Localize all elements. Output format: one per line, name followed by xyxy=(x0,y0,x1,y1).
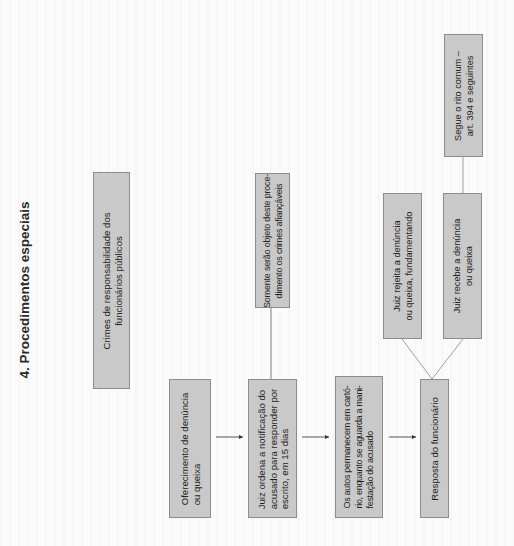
node-text: Juiz ordena a notificação do acusado par… xyxy=(255,388,290,509)
node-text: Os autos permanecem em cartó- rio, enqua… xyxy=(342,386,377,509)
node-oferecimento-denuncia: Oferecimento de denúncia ou queixa xyxy=(169,379,211,518)
node-resposta-funcionario: Resposta do funcionário xyxy=(420,379,449,518)
node-juiz-recebe: Juiz recebe a denúncia ou queixa xyxy=(443,193,482,339)
node-text: Resposta do funcionário xyxy=(429,397,441,500)
node-crimes-responsabilidade: Crimes de responsabilidade dos funcionár… xyxy=(93,172,130,389)
node-juiz-rejeita: Juiz rejeita a denúncia ou queixa, funda… xyxy=(383,193,422,339)
line-resposta-to-rejeita xyxy=(402,339,432,379)
section-title: 4. Procedimentos especiais xyxy=(17,201,32,378)
node-text: Segue o rito comum – art. 394 e seguinte… xyxy=(452,51,475,141)
node-text: Somente serão objeto deste proce- diment… xyxy=(261,174,284,308)
node-juiz-ordena-notificacao: Juiz ordena a notificação do acusado par… xyxy=(248,379,297,518)
node-text: Juiz recebe a denúncia ou queixa xyxy=(451,219,474,314)
node-somente-crimes-afiancaveis: Somente serão objeto deste proce- diment… xyxy=(255,173,290,308)
node-text: Crimes de responsabilidade dos funcionár… xyxy=(100,212,123,349)
node-text: Juiz rejeita a denúncia ou queixa, funda… xyxy=(391,212,414,321)
node-autos-permanecem: Os autos permanecem em cartó- rio, enqua… xyxy=(335,376,383,518)
node-segue-rito-comum: Segue o rito comum – art. 394 e seguinte… xyxy=(444,34,483,157)
line-resposta-to-recebe xyxy=(432,339,463,379)
node-text: Oferecimento de denúncia ou queixa xyxy=(179,392,202,505)
